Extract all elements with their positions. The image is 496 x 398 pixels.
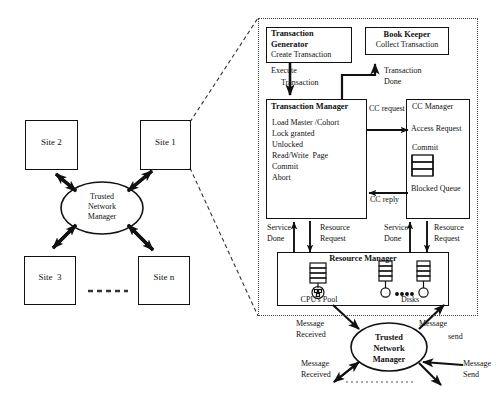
label-message-send-bottom-line2: Send [463, 371, 479, 380]
label-resource-request-right-line2: Request [434, 235, 460, 244]
book-keeper-body: Collect Transaction [365, 41, 449, 50]
hub-label-line1: Trusted [71, 193, 133, 202]
bottom-hub-label-line1: Trusted [359, 333, 419, 342]
label-resource-request-left-line2: Request [320, 235, 346, 244]
resource-manager-title: Resource Manager [277, 254, 449, 263]
transaction-manager-title: Transaction Manager [271, 102, 348, 111]
transaction-generator-title-line1: Transaction [271, 29, 314, 38]
transaction-manager-item-5: Abort [272, 174, 291, 183]
label-cc-reply: CC reply [370, 196, 399, 205]
book-keeper-title: Book Keeper [365, 30, 449, 39]
hub-label-line2: Network [71, 203, 133, 212]
transaction-generator-title-line2: Generator [271, 40, 308, 49]
resource-manager-cpu-pool-label: CPU's Pool [291, 296, 347, 305]
site-label-site3: Site 3 [24, 273, 76, 283]
label-service-done-left-line1: Service [267, 224, 291, 233]
site-label-siten: Site n [138, 273, 190, 283]
label-message-send-top-line1: Message [419, 320, 447, 329]
arrow-hub-site2 [56, 174, 76, 191]
label-service-done-right-line2: Done [384, 235, 401, 244]
zoom-line-bottom [190, 168, 258, 316]
label-cc-request: CC request [369, 105, 405, 114]
label-message-received-top-line1: Message [296, 320, 324, 329]
label-service-done-right-line1: Service [384, 224, 408, 233]
cc-manager-blocked-queue: Blocked Queue [411, 185, 461, 194]
transaction-manager-item-0: Load Master /Cohort [272, 119, 339, 128]
label-service-done-left-line2: Done [267, 235, 284, 244]
cc-manager-access-request: Access Request [411, 125, 461, 134]
label-message-send-top-line2: send [448, 333, 463, 342]
label-resource-request-right-line1: Resource [434, 224, 464, 233]
label-execute-transaction: Transaction [281, 79, 318, 88]
arrow-message-received-bottom-in [334, 362, 359, 382]
cc-manager-box[interactable] [406, 99, 470, 219]
label-message-received-bottom-line1: Message [301, 360, 329, 369]
transaction-manager-item-3: Read/Write Page [272, 152, 328, 161]
label-transaction-done-line2: Done [384, 78, 401, 87]
cc-manager-title: CC Manager [412, 103, 453, 112]
arrow-hub-site1 [128, 171, 152, 191]
label-message-received-bottom-line2: Received [301, 371, 331, 380]
hub-label-line3: Manager [71, 213, 133, 222]
zoom-line-top [190, 18, 258, 122]
bottom-hub-label-line3: Manager [359, 355, 419, 364]
site-label-site2: Site 2 [25, 138, 78, 148]
label-execute: Execute [271, 67, 297, 76]
label-resource-request-left-line1: Resource [320, 224, 350, 233]
label-message-send-bottom-line1: Message [463, 360, 491, 369]
transaction-manager-item-4: Commit [272, 163, 298, 172]
site-label-site1: Site 1 [140, 138, 191, 148]
label-message-received-top-line2: Received [296, 331, 326, 340]
transaction-manager-item-1: Lock granted [272, 130, 314, 139]
resource-manager-disks-label: Disks [389, 296, 431, 305]
arrow-message-send-bottom-in [423, 362, 463, 365]
label-transaction-done-line1: Transaction [384, 67, 421, 76]
arrow-hub-siten [128, 225, 153, 250]
zoom-connector-lines [190, 18, 258, 316]
transaction-manager-item-2: Unlocked [272, 141, 303, 150]
bottom-hub-label-line2: Network [359, 344, 419, 353]
arrow-hub-site3 [53, 225, 76, 248]
diagram-canvas: Site 2 Site 1 Site 3 Site n Trusted Netw… [0, 0, 496, 398]
arrow-message-send-bottom-out [419, 363, 441, 385]
cc-manager-commit: Commit [412, 144, 438, 153]
transaction-generator-body: Create Transaction [271, 51, 331, 60]
